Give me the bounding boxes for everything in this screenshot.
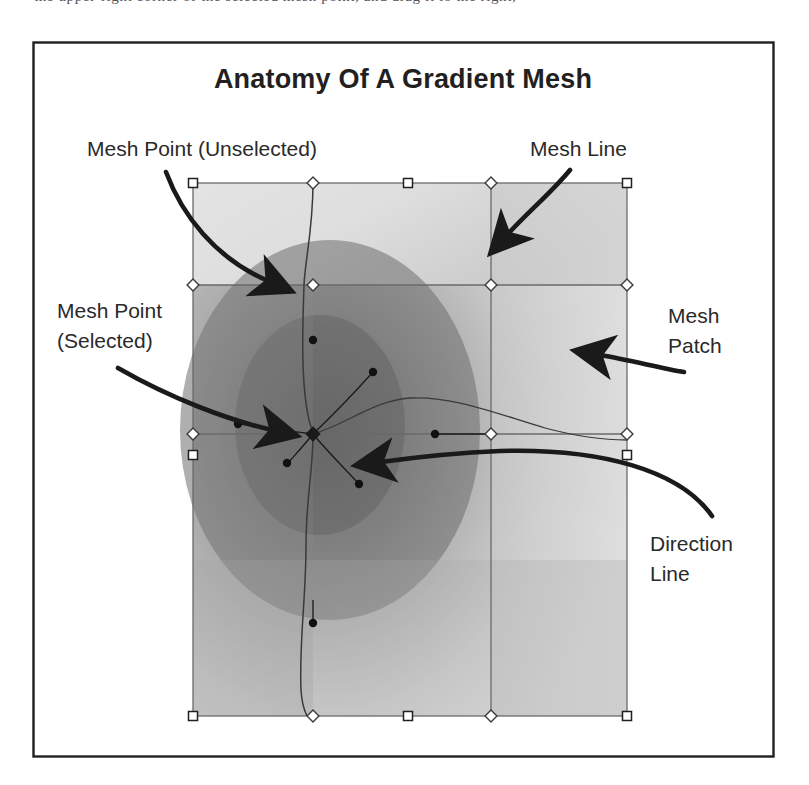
callout-mesh-point-unselected: Mesh Point (Unselected) bbox=[87, 137, 317, 160]
direction-handle-dot[interactable] bbox=[431, 430, 439, 438]
callout-direction-line: Direction Line bbox=[650, 532, 739, 585]
direction-handle-dot[interactable] bbox=[283, 459, 291, 467]
edge-handle-square[interactable] bbox=[623, 451, 632, 460]
direction-handle-dot[interactable] bbox=[309, 336, 317, 344]
callout-mesh-point-selected: Mesh Point (Selected) bbox=[57, 299, 168, 352]
figure-stage: Anatomy Of A Gradient Mesh bbox=[0, 0, 809, 785]
direction-handle-dot[interactable] bbox=[355, 480, 363, 488]
edge-handle-square[interactable] bbox=[189, 451, 198, 460]
mesh-fill-left bbox=[193, 285, 313, 716]
direction-handle-dot[interactable] bbox=[369, 368, 377, 376]
direction-handle-dot[interactable] bbox=[309, 619, 317, 627]
corner-handle-square[interactable] bbox=[189, 179, 198, 188]
corner-handle-square[interactable] bbox=[623, 179, 632, 188]
figure-title: Anatomy Of A Gradient Mesh bbox=[214, 64, 592, 94]
corner-handle-square[interactable] bbox=[623, 712, 632, 721]
gradient-mesh[interactable] bbox=[180, 183, 627, 716]
corner-handle-square[interactable] bbox=[189, 712, 198, 721]
callout-mesh-patch: Mesh Patch bbox=[668, 304, 725, 357]
edge-handle-square[interactable] bbox=[404, 179, 413, 188]
callout-mesh-line: Mesh Line bbox=[530, 137, 627, 160]
edge-handle-square[interactable] bbox=[404, 712, 413, 721]
